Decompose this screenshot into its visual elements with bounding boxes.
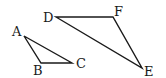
triangle-abc: A B C	[11, 24, 86, 78]
vertex-label-d: D	[43, 10, 53, 25]
triangle-abc-shape	[24, 36, 72, 63]
vertex-label-a: A	[11, 24, 22, 39]
triangle-def: D E F	[43, 4, 154, 78]
vertex-label-b: B	[33, 63, 43, 78]
vertex-label-e: E	[144, 64, 154, 78]
vertex-label-c: C	[76, 56, 86, 71]
triangles-diagram: A B C D E F	[0, 0, 166, 78]
triangle-def-shape	[56, 17, 142, 68]
vertex-label-f: F	[114, 4, 123, 19]
